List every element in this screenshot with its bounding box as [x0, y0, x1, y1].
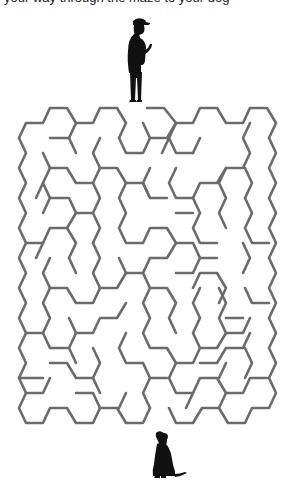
maze-wall [226, 318, 250, 333]
maze-wall [26, 213, 93, 243]
maze-wall [226, 378, 267, 393]
maze-wall [36, 183, 43, 198]
maze-wall [36, 243, 43, 258]
maze-wall [186, 393, 193, 408]
maze-wall [43, 168, 67, 198]
maze-wall [169, 123, 193, 153]
maze-wall [147, 108, 276, 423]
maze-wall [245, 348, 252, 378]
maze-wall [193, 138, 200, 153]
maze-wall [176, 348, 200, 363]
maze-wall [43, 288, 50, 348]
maze-wall [193, 273, 226, 303]
maze-wall [119, 333, 167, 378]
maze-walls [19, 108, 276, 423]
maze-wall [219, 363, 226, 378]
maze-wall [43, 198, 50, 213]
maze-wall [176, 258, 200, 273]
maze-wall [245, 288, 269, 303]
maze-wall [69, 198, 76, 213]
maze-wall [69, 303, 126, 333]
maze-wall [143, 168, 150, 198]
maze-wall [76, 393, 100, 408]
maze-wall [69, 333, 76, 363]
dog-silhouette-icon [153, 431, 187, 478]
maze-wall [150, 243, 217, 258]
maze-wall [50, 363, 93, 378]
maze-wall [119, 393, 126, 408]
maze-wall [69, 123, 76, 138]
maze-wall [43, 153, 100, 183]
maze-wall [26, 378, 50, 393]
maze-wall [143, 123, 150, 138]
maze-wall [119, 258, 126, 273]
maze-wall [50, 138, 76, 153]
maze-wall [169, 378, 226, 408]
maze-puzzle: your way through the maze to your dog [0, 0, 294, 504]
maze-wall [193, 198, 217, 243]
maze-wall [143, 378, 150, 408]
maze-wall [169, 123, 250, 198]
man-silhouette-icon [128, 18, 152, 102]
maze-wall [19, 138, 150, 423]
maze-wall [119, 123, 176, 153]
maze-wall [162, 138, 169, 153]
maze-wall [245, 168, 269, 243]
maze-wall [150, 288, 176, 333]
maze-wall [93, 348, 100, 393]
maze-canvas [0, 0, 294, 504]
maze-wall [93, 243, 100, 288]
maze-wall [67, 228, 76, 273]
maze-wall [243, 243, 250, 273]
